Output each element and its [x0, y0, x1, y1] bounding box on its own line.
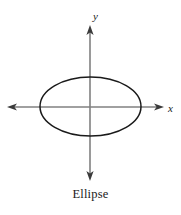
- y-axis-label: y: [92, 10, 98, 22]
- figure-caption: Ellipse: [0, 187, 181, 201]
- ellipse-diagram: y x Ellipse: [0, 0, 181, 215]
- x-axis-label: x: [167, 102, 173, 114]
- diagram-canvas: y x: [0, 0, 181, 215]
